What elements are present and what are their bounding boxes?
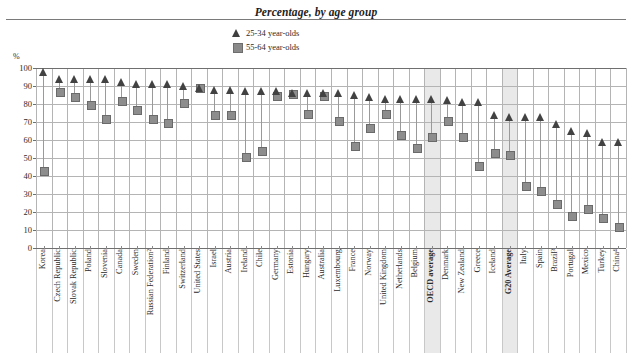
connector-line (618, 142, 619, 227)
x-axis-tick-mark (90, 246, 91, 249)
data-point-group (579, 68, 595, 248)
y-axis-tick-label: 10 (24, 225, 33, 235)
connector-line (105, 79, 106, 119)
connector-line (167, 84, 168, 122)
y-axis-tick-label: 20 (24, 207, 33, 217)
y-axis-tick-label: 40 (24, 171, 33, 181)
x-axis-label: Mexico (582, 249, 590, 274)
x-axis-label: G20 Average (505, 249, 513, 294)
connector-line (478, 102, 479, 165)
data-point-group (424, 68, 440, 248)
x-axis-label: Australia (318, 249, 326, 279)
x-label-separator (455, 249, 456, 353)
data-point-55-64 (71, 93, 80, 102)
x-label-separator (517, 249, 518, 353)
data-point-55-64 (506, 151, 515, 160)
x-axis-label: Greece (474, 249, 482, 273)
data-point-group (486, 68, 502, 248)
data-point-25-34 (163, 80, 171, 88)
data-point-group (269, 68, 285, 248)
legend-label: 25-34 year-olds (246, 28, 299, 38)
data-point-group (222, 68, 238, 248)
legend-item-25-34: 25-34 year-olds (232, 27, 432, 38)
x-axis-label: Italy (520, 249, 528, 264)
x-axis-tick-mark (541, 246, 542, 249)
data-point-group (145, 68, 161, 248)
x-label-separator (393, 249, 394, 353)
data-point-55-64 (584, 205, 593, 214)
data-point-55-64 (304, 110, 313, 119)
data-point-25-34 (195, 84, 203, 92)
data-point-25-34 (521, 113, 529, 121)
data-point-25-34 (303, 89, 311, 97)
connector-line (556, 124, 557, 203)
x-axis-label: Turkey (598, 249, 606, 273)
x-label-separator (222, 249, 223, 353)
x-axis-tick-mark (385, 246, 386, 249)
chart-title: Percentage, by age group (255, 6, 378, 18)
x-label-separator (98, 249, 99, 353)
x-label-separator (579, 249, 580, 353)
connector-line (43, 72, 44, 171)
chart-legend: 25-34 year-olds 55-64 year-olds (232, 27, 432, 55)
data-point-55-64 (599, 214, 608, 223)
data-point-group (83, 68, 99, 248)
square-marker-icon (232, 42, 241, 51)
x-axis-label: Estonia (287, 249, 295, 274)
data-point-55-64 (40, 167, 49, 176)
data-point-55-64 (568, 212, 577, 221)
data-point-55-64 (382, 110, 391, 119)
data-point-55-64 (366, 124, 375, 133)
data-point-group (284, 68, 300, 248)
x-axis-label: Korea (39, 249, 47, 269)
data-point-group (114, 68, 130, 248)
x-axis-label: Ireland (241, 249, 249, 273)
data-point-55-64 (87, 101, 96, 110)
x-axis-label: China⁴ (613, 249, 621, 272)
data-point-group (331, 68, 347, 248)
x-axis-label: OECD average (427, 249, 435, 303)
x-axis-tick-mark (618, 246, 619, 249)
data-point-25-34 (288, 89, 296, 97)
x-axis-tick-mark (230, 246, 231, 249)
x-label-separator (486, 249, 487, 353)
x-axis-label: Luxembourg (334, 249, 342, 292)
data-point-group (315, 68, 331, 248)
x-axis-tick-mark (261, 246, 262, 249)
x-label-separator (533, 249, 534, 353)
data-point-group (253, 68, 269, 248)
x-label-separator (284, 249, 285, 353)
connector-line (245, 91, 246, 156)
connector-line (416, 99, 417, 148)
data-point-group (191, 68, 207, 248)
data-point-group (440, 68, 456, 248)
y-axis-tick-label: 80 (24, 99, 33, 109)
data-point-55-64 (258, 147, 267, 156)
y-axis-unit: % (13, 52, 20, 61)
data-point-25-34 (179, 82, 187, 90)
connector-line (400, 99, 401, 135)
connector-line (587, 133, 588, 209)
connector-line (602, 142, 603, 218)
x-axis-tick-mark (121, 246, 122, 249)
x-axis-label: Finland (163, 249, 171, 274)
data-point-25-34 (552, 120, 560, 128)
x-axis-tick-mark (603, 246, 604, 249)
x-axis-tick-mark (587, 246, 588, 249)
x-label-separator (67, 249, 68, 353)
data-point-group (207, 68, 223, 248)
data-point-group (517, 68, 533, 248)
data-point-25-34 (614, 138, 622, 146)
data-point-55-64 (335, 117, 344, 126)
data-point-group (347, 68, 363, 248)
data-point-25-34 (117, 78, 125, 86)
data-point-55-64 (242, 153, 251, 162)
data-point-25-34 (257, 87, 265, 95)
x-label-separator (502, 249, 503, 353)
x-label-separator (300, 249, 301, 353)
y-axis-tick-label: 30 (24, 189, 33, 199)
x-label-separator (626, 249, 627, 353)
data-point-25-34 (55, 75, 63, 83)
data-point-group (393, 68, 409, 248)
data-point-25-34 (319, 89, 327, 97)
